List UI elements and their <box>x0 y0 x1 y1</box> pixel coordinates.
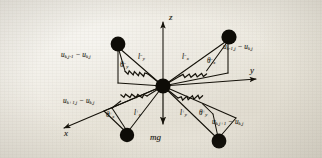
theta-subscript: x <box>112 114 114 119</box>
minus-operator: − <box>79 96 84 105</box>
u-subscript: k,j-1 <box>65 54 74 59</box>
u-subscript: k,j <box>248 46 253 51</box>
gravity-label: mg <box>150 133 161 142</box>
spring-coil-lower-right <box>178 95 203 100</box>
angle-label-lower-left: θ+x <box>106 112 114 120</box>
angle-label-lower-right: θ+y <box>199 110 207 118</box>
angle-label-upper-left: θ−y <box>120 62 128 70</box>
u-subscript: k,j <box>239 121 244 126</box>
spring-length-label-lower-left: l+x <box>134 110 141 118</box>
mass-lower-right <box>212 134 227 149</box>
u-subscript: k,j <box>86 54 91 59</box>
strut-lower-right <box>163 86 218 139</box>
angle-label-upper-right: θ−x <box>207 58 215 66</box>
l-subscript: x <box>139 112 141 117</box>
displacement-label-upper-left: uk,j-1 − uk,j <box>61 51 91 60</box>
u-subscript: k-1,j <box>227 46 236 51</box>
displacement-label-upper-right: uk-1,j − uk,j <box>223 43 253 52</box>
axis-label-y: y <box>250 66 254 75</box>
spring-length-label-upper-left: l−y <box>138 54 145 62</box>
central-mass <box>155 78 170 93</box>
axis-label-x: x <box>64 129 68 138</box>
l-subscript: x <box>187 56 189 61</box>
diagram-vector-layer <box>0 0 322 158</box>
l-subscript: y <box>185 112 187 117</box>
figure-canvas: z y x mg uk,j-1 − uk,j uk-1,j − uk,j uk+… <box>0 0 322 158</box>
displacement-label-lower-left: uk+1,j − uk,j <box>63 97 94 106</box>
displacement-label-lower-right: uk,j+1 − uk,j <box>212 118 243 127</box>
spring-coil-upper-left <box>125 71 148 76</box>
u-subscript: k+1,j <box>67 100 77 105</box>
strut-lower-left <box>127 86 163 133</box>
mass-upper-left <box>111 37 126 52</box>
minus-operator: − <box>228 117 233 126</box>
theta-subscript: y <box>126 64 128 69</box>
spring-coil-upper-right <box>180 73 207 77</box>
spring-length-label-upper-right: l−x <box>182 54 189 62</box>
axis-label-z: z <box>169 13 173 22</box>
u-subscript: k,j+1 <box>216 121 226 126</box>
axis-y <box>163 79 256 86</box>
l-subscript: y <box>143 56 145 61</box>
spring-length-label-lower-right: l+y <box>180 110 187 118</box>
minus-operator: − <box>237 42 242 51</box>
mass-lower-left <box>120 128 134 142</box>
theta-subscript: x <box>213 60 215 65</box>
u-subscript: k,j <box>90 100 95 105</box>
minus-operator: − <box>75 50 80 59</box>
theta-subscript: y <box>205 112 207 117</box>
